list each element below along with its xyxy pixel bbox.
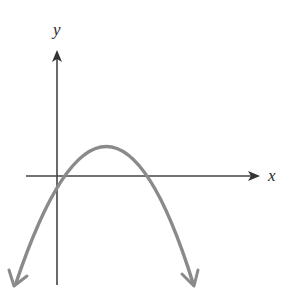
y-axis-label: y: [53, 20, 61, 40]
x-axis-label: x: [268, 166, 276, 186]
parabola-curve: [16, 147, 193, 284]
parabola-graph: [0, 0, 290, 303]
